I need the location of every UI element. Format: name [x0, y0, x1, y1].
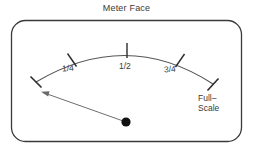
- scale-label-full-scale: Full– Scale: [198, 93, 219, 113]
- needle-pivot-dot: [121, 117, 130, 126]
- scale-label-one-half: 1/2: [119, 61, 131, 71]
- meter-needle: [43, 93, 126, 123]
- needle-arrowhead-icon: [41, 91, 50, 96]
- meter-face-drawing: [0, 0, 253, 148]
- scale-label-three-quarter: 3/4: [164, 64, 177, 75]
- tick-zero: [31, 77, 42, 88]
- full-scale-line-1: Full–: [198, 93, 219, 103]
- tick-three-quarter: [176, 54, 185, 67]
- meter-needle-group: [41, 91, 126, 122]
- scale-label-one-quarter: 1/4: [62, 63, 74, 74]
- tick-full-scale: [208, 79, 219, 91]
- full-scale-line-2: Scale: [198, 103, 219, 113]
- meter-face-figure: Meter Face 1/4 1/2 3/4 Full– Scale: [0, 0, 253, 148]
